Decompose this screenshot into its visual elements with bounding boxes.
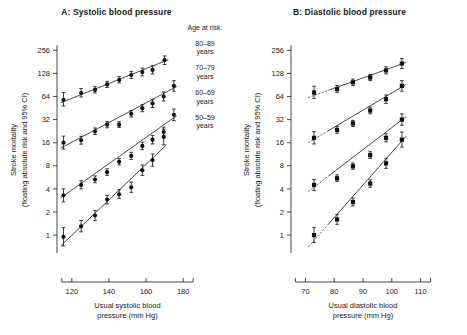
figure-root: A: Systolic blood pressure 1248163264128… <box>0 0 467 335</box>
svg-text:2: 2 <box>280 208 284 217</box>
svg-text:32: 32 <box>276 115 284 124</box>
svg-text:2: 2 <box>46 208 50 217</box>
svg-text:16: 16 <box>42 138 50 147</box>
legend-item-60-69: 60–69 years <box>178 89 232 106</box>
svg-text:4: 4 <box>46 185 50 194</box>
svg-text:128: 128 <box>271 69 284 78</box>
svg-text:100: 100 <box>386 287 399 296</box>
svg-text:pressure (mm Hg): pressure (mm Hg) <box>97 311 158 320</box>
legend-item-80-89-line2: years <box>178 48 232 57</box>
svg-text:80: 80 <box>330 287 338 296</box>
legend-item-70-79: 70–79 years <box>178 64 232 81</box>
panel-b-plot: 1248163264128256Stroke mortality(floatin… <box>233 0 466 335</box>
panel-systolic: A: Systolic blood pressure 1248163264128… <box>0 0 233 335</box>
svg-text:1: 1 <box>46 231 50 240</box>
svg-text:pressure (mm Hg): pressure (mm Hg) <box>333 311 394 320</box>
svg-text:1: 1 <box>280 231 284 240</box>
svg-text:Usual systolic blood: Usual systolic blood <box>94 301 160 310</box>
svg-text:4: 4 <box>280 185 284 194</box>
svg-text:90: 90 <box>359 287 367 296</box>
legend-item-70-79-line1: 70–79 <box>178 64 232 73</box>
legend-item-50-59: 50–59 years <box>178 114 232 131</box>
svg-text:128: 128 <box>37 69 50 78</box>
panel-a-legend: Age at risk: 80–89 years 70–79 years 60–… <box>178 24 232 138</box>
svg-text:8: 8 <box>46 161 50 170</box>
svg-text:120: 120 <box>66 287 79 296</box>
legend-item-60-69-line2: years <box>178 98 232 107</box>
legend-item-80-89: 80–89 years <box>178 40 232 57</box>
legend-title: Age at risk: <box>178 24 232 33</box>
svg-text:160: 160 <box>140 287 153 296</box>
svg-text:64: 64 <box>276 92 284 101</box>
svg-text:8: 8 <box>280 161 284 170</box>
svg-text:Usual diastolic blood: Usual diastolic blood <box>329 301 398 310</box>
svg-text:(floating absolute risk and 95: (floating absolute risk and 95% CI) <box>20 92 29 207</box>
legend-item-50-59-line2: years <box>178 122 232 131</box>
svg-text:256: 256 <box>37 46 50 55</box>
legend-item-60-69-line1: 60–69 <box>178 89 232 98</box>
svg-text:Stroke mortality: Stroke mortality <box>9 124 18 176</box>
svg-text:32: 32 <box>42 115 50 124</box>
svg-text:140: 140 <box>103 287 116 296</box>
legend-item-80-89-line1: 80–89 <box>178 40 232 49</box>
svg-text:70: 70 <box>301 287 309 296</box>
svg-text:64: 64 <box>42 92 50 101</box>
legend-item-70-79-line2: years <box>178 73 232 82</box>
legend-item-50-59-line1: 50–59 <box>178 114 232 123</box>
svg-text:110: 110 <box>415 287 427 296</box>
svg-text:256: 256 <box>271 46 284 55</box>
svg-text:180: 180 <box>177 287 190 296</box>
svg-text:Stroke mortality: Stroke mortality <box>242 124 251 176</box>
svg-text:16: 16 <box>276 138 284 147</box>
panel-diastolic: B: Diastolic blood pressure 124816326412… <box>233 0 466 335</box>
svg-text:(floating absolute risk and 95: (floating absolute risk and 95% CI) <box>253 92 262 207</box>
